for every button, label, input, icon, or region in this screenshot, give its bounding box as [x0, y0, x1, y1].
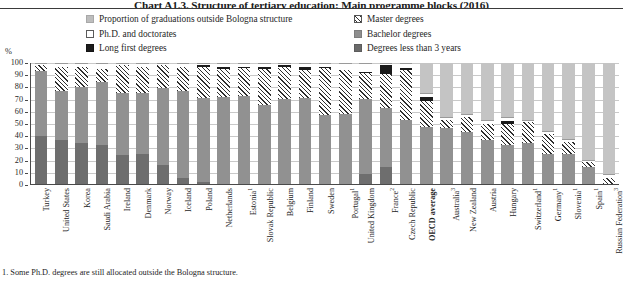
y-tick-mark-50 — [25, 124, 28, 125]
stacked-bar[interactable] — [339, 63, 352, 184]
legend-swatch-less3-icon — [354, 44, 362, 52]
bar-slot[interactable] — [153, 63, 173, 184]
bar-slot[interactable] — [599, 63, 619, 184]
stacked-bar[interactable] — [440, 63, 453, 184]
bar-segment-less3 — [177, 178, 190, 184]
bar-segment-outside — [522, 63, 535, 120]
stacked-bar[interactable] — [481, 63, 494, 184]
bar-slot[interactable] — [295, 63, 315, 184]
stacked-bar[interactable] — [461, 63, 474, 184]
bar-segment-bachelor — [258, 105, 271, 184]
stacked-bar[interactable] — [562, 63, 575, 184]
stacked-bar[interactable] — [197, 63, 210, 184]
bar-slot[interactable] — [477, 63, 497, 184]
bar-slot[interactable] — [234, 63, 254, 184]
bar-segment-less3 — [197, 182, 210, 184]
x-label-slot: Finland — [294, 186, 314, 264]
bar-segment-bachelor — [278, 99, 291, 184]
bar-slot[interactable] — [72, 63, 92, 184]
stacked-bar[interactable] — [258, 63, 271, 184]
bar-slot[interactable] — [457, 63, 477, 184]
bar-segment-master — [96, 69, 109, 82]
y-tick-label-90: 90 — [15, 71, 23, 79]
bar-slot[interactable] — [31, 63, 51, 184]
stacked-bar[interactable] — [582, 63, 595, 184]
stacked-bar[interactable] — [400, 63, 413, 184]
stacked-bar[interactable] — [116, 63, 129, 184]
bar-slot[interactable] — [315, 63, 335, 184]
bar-series-container — [31, 63, 619, 184]
stacked-bar[interactable] — [238, 63, 251, 184]
legend-swatch-phd-icon — [86, 30, 94, 38]
stacked-bar[interactable] — [299, 63, 312, 184]
bar-slot[interactable] — [538, 63, 558, 184]
bar-segment-phd — [339, 63, 352, 70]
x-label-slot: Turkey — [30, 186, 50, 264]
bar-segment-bachelor — [339, 114, 352, 184]
bar-segment-less3 — [136, 154, 149, 184]
bar-segment-bachelor — [75, 87, 88, 143]
bar-segment-outside — [542, 63, 555, 131]
stacked-bar[interactable] — [75, 63, 88, 184]
legend-swatch-outside-icon — [86, 15, 94, 23]
x-label-footnote-marker: 1 — [572, 188, 578, 191]
stacked-bar[interactable] — [278, 63, 291, 184]
bar-segment-bachelor — [177, 91, 190, 178]
bar-slot[interactable] — [92, 63, 112, 184]
bar-slot[interactable] — [112, 63, 132, 184]
y-tick-label-60: 60 — [15, 108, 23, 116]
x-label-footnote-marker: 1 — [532, 188, 538, 191]
stacked-bar[interactable] — [55, 63, 68, 184]
bar-slot[interactable] — [579, 63, 599, 184]
bar-slot[interactable] — [437, 63, 457, 184]
legend-item-phd: Ph.D. and doctorates — [86, 27, 354, 42]
stacked-bar[interactable] — [522, 63, 535, 184]
stacked-bar[interactable] — [217, 63, 230, 184]
stacked-bar[interactable] — [157, 63, 170, 184]
bar-slot[interactable] — [173, 63, 193, 184]
bar-segment-bachelor — [359, 99, 372, 174]
stacked-bar[interactable] — [501, 63, 514, 184]
stacked-bar[interactable] — [35, 63, 48, 184]
bar-segment-master — [501, 124, 514, 146]
stacked-bar[interactable] — [603, 63, 616, 184]
stacked-bar[interactable] — [319, 63, 332, 184]
stacked-bar[interactable] — [359, 63, 372, 184]
stacked-bar[interactable] — [136, 63, 149, 184]
bar-segment-bachelor — [440, 128, 453, 184]
stacked-bar[interactable] — [542, 63, 555, 184]
bar-segment-master — [339, 70, 352, 114]
x-label-footnote-marker: 3 — [613, 188, 619, 191]
x-label-slot: Czech Republic — [396, 186, 416, 264]
bar-segment-master — [542, 134, 555, 153]
y-tick-label-40: 40 — [15, 132, 23, 140]
bar-slot[interactable] — [51, 63, 71, 184]
y-tick-mark-60 — [25, 112, 28, 113]
bar-segment-less3 — [157, 165, 170, 184]
y-tick-label-30: 30 — [15, 144, 23, 152]
bar-slot[interactable] — [558, 63, 578, 184]
bar-slot[interactable] — [193, 63, 213, 184]
stacked-bar[interactable] — [420, 63, 433, 184]
bar-slot[interactable] — [356, 63, 376, 184]
stacked-bar[interactable] — [96, 63, 109, 184]
stacked-bar[interactable] — [380, 63, 393, 184]
bar-slot[interactable] — [274, 63, 294, 184]
bar-slot[interactable] — [518, 63, 538, 184]
bar-slot[interactable] — [214, 63, 234, 184]
y-tick-mark-0 — [25, 185, 28, 186]
stacked-bar[interactable] — [177, 63, 190, 184]
bar-slot[interactable] — [396, 63, 416, 184]
bar-slot[interactable] — [416, 63, 436, 184]
bar-slot[interactable] — [376, 63, 396, 184]
bar-segment-bachelor — [136, 93, 149, 154]
bar-slot[interactable] — [335, 63, 355, 184]
legend-swatch-bachelor-icon — [354, 30, 362, 38]
x-label-slot: Hungary — [497, 186, 517, 264]
y-tick-mark-20 — [25, 161, 28, 162]
bar-slot[interactable] — [254, 63, 274, 184]
chart-legend: Proportion of graduations outside Bologn… — [86, 12, 606, 56]
bar-slot[interactable] — [132, 63, 152, 184]
bar-segment-less3 — [116, 155, 129, 184]
bar-slot[interactable] — [497, 63, 517, 184]
